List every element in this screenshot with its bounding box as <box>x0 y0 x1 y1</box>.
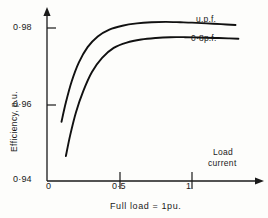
y-axis-ticks <box>47 28 56 105</box>
x-axis-title-line1: Load <box>213 148 233 157</box>
series-curve-08pf <box>66 37 239 156</box>
efficiency-vs-load-current-chart: 0·98 0·96 0·94 0 0·5 1 Efficiency, p.u. … <box>0 0 268 218</box>
y-axis-arrow-icon <box>43 7 50 16</box>
series-label-upf: u.p.f. <box>196 15 216 24</box>
y-tick-label-098: 0·98 <box>13 23 32 32</box>
x-tick-label-1: 1 <box>186 182 191 191</box>
chart-caption: Full load = 1pu. <box>110 202 181 211</box>
x-axis-arrow-icon <box>255 177 264 184</box>
x-tick-label-0: 0 <box>46 182 51 191</box>
chart-plot-area <box>0 0 268 218</box>
x-axis-title-line2: current <box>208 159 237 168</box>
x-tick-label-05: 0·5 <box>112 182 126 191</box>
series-label-08pf: 0·8p.f. <box>191 34 217 43</box>
x-axis <box>47 177 264 184</box>
y-axis <box>43 7 50 181</box>
y-tick-label-094: 0·94 <box>13 175 32 184</box>
y-axis-title: Efficiency, p.u. <box>10 91 19 152</box>
